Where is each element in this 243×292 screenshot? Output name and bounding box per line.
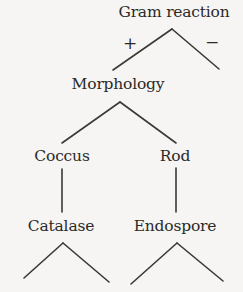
dichotomous-key-diagram: Gram reaction + − Morphology Coccus Rod …: [0, 0, 243, 292]
edge-morphology-to-rod: [120, 102, 176, 143]
edge-catalase-to-leaf-left: [24, 243, 63, 278]
edge-label-gram-negative: −: [205, 34, 219, 51]
edge-catalase-to-leaf-right: [63, 243, 109, 282]
node-morphology: Morphology: [72, 77, 165, 93]
node-gram-reaction: Gram reaction: [118, 5, 229, 21]
node-rod: Rod: [160, 149, 190, 165]
node-coccus: Coccus: [34, 149, 89, 165]
edge-endospore-to-leaf-right: [177, 243, 223, 281]
edge-label-gram-positive: +: [123, 35, 137, 52]
edge-morphology-to-coccus: [62, 102, 120, 143]
edge-gram-to-morphology: [113, 29, 172, 70]
edge-endospore-to-leaf-left: [131, 243, 177, 284]
node-catalase: Catalase: [28, 219, 94, 235]
node-endospore: Endospore: [134, 219, 217, 235]
